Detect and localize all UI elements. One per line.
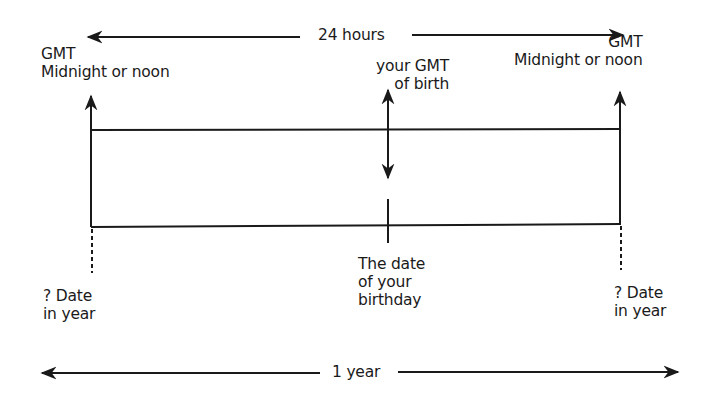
center-bottom-label-line-1: The date [358, 255, 425, 273]
left-bottom-label-line-2: in year [43, 305, 95, 323]
right-bottom-label-line-2: in year [614, 302, 666, 320]
lower-timeline [91, 224, 621, 227]
center-top-label: your GMT of birth [376, 57, 449, 93]
center-bottom-label-line-3: birthday [358, 291, 425, 309]
left-top-label-line-2: Midnight or noon [41, 63, 170, 81]
right-top-label-line-2: Midnight or noon [514, 51, 643, 69]
center-bottom-label-line-2: of your [358, 273, 425, 291]
center-bottom-label: The date of your birthday [358, 255, 425, 309]
center-top-label-line-2: of birth [376, 75, 449, 93]
left-bottom-label-line-1: ? Date [43, 287, 95, 305]
right-top-label-line-1: GMT [514, 33, 643, 51]
top-span-label: 24 hours [313, 26, 390, 44]
center-top-label-line-1: your GMT [376, 57, 449, 75]
upper-timeline [91, 129, 621, 130]
left-top-label: GMT Midnight or noon [41, 45, 170, 81]
right-top-label: GMT Midnight or noon [514, 33, 643, 69]
right-bottom-label: ? Date in year [614, 284, 666, 320]
right-bottom-label-line-1: ? Date [614, 284, 666, 302]
bottom-span-label: 1 year [327, 363, 385, 381]
left-top-label-line-1: GMT [41, 45, 170, 63]
left-bottom-label: ? Date in year [43, 287, 95, 323]
